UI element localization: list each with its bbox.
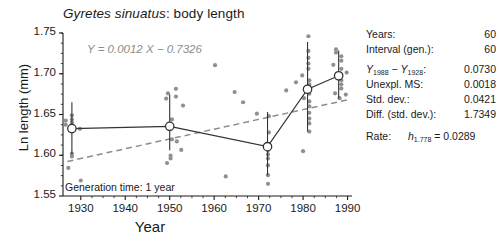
specimen-point bbox=[306, 61, 310, 65]
specimen-point bbox=[241, 100, 245, 104]
scatter-plot: Gyretes sinuatus: body length Y = 0.0012… bbox=[0, 0, 360, 248]
specimen-point bbox=[306, 56, 310, 60]
specimen-point bbox=[179, 148, 183, 152]
specimen-point bbox=[213, 63, 217, 67]
specimen-point bbox=[333, 91, 337, 95]
specimen-point bbox=[70, 154, 74, 158]
specimen-point bbox=[255, 112, 259, 116]
specimen-point bbox=[164, 97, 168, 101]
specimen-point bbox=[331, 63, 335, 67]
stat-value: 60 bbox=[484, 28, 496, 40]
stat-label: Diff. (std. dev.): bbox=[366, 108, 436, 120]
specimen-point bbox=[224, 174, 228, 178]
stat-row-unexplained-ms: Unexpl. MS:0.0018 bbox=[366, 78, 502, 92]
statistics-panel: Years:60Interval (gen.):60Y1988 − Y1928:… bbox=[366, 0, 502, 248]
specimen-point bbox=[301, 149, 305, 153]
mean-connector-line bbox=[72, 76, 339, 147]
specimen-point bbox=[334, 50, 338, 54]
specimen-point bbox=[294, 80, 298, 84]
plot-canvas bbox=[0, 0, 360, 248]
stat-label: Std. dev.: bbox=[366, 93, 410, 105]
regression-line bbox=[67, 100, 347, 162]
specimen-point bbox=[79, 178, 83, 182]
stat-row-years: Years:60 bbox=[366, 28, 502, 42]
stat-row-difference-std-dev: Diff. (std. dev.):1.7349 bbox=[366, 108, 502, 122]
stat-value: 1.7349 bbox=[464, 108, 496, 120]
specimen-point bbox=[170, 117, 174, 121]
specimen-point bbox=[169, 156, 173, 160]
stat-row-rate: Rate:h1.778 = 0.0289 bbox=[366, 130, 502, 144]
stat-label: Unexpl. MS: bbox=[366, 78, 423, 90]
specimen-point bbox=[339, 82, 343, 86]
specimen-point bbox=[64, 119, 68, 123]
specimen-point bbox=[306, 49, 310, 53]
stat-value: h1.778 = 0.0289 bbox=[408, 130, 475, 142]
specimen-point bbox=[344, 92, 348, 96]
specimen-point bbox=[339, 67, 343, 71]
figure-panel: Gyretes sinuatus: body length Y = 0.0012… bbox=[0, 0, 502, 248]
sample-mean-marker bbox=[166, 122, 174, 130]
sample-mean-marker bbox=[303, 85, 311, 93]
specimen-point bbox=[233, 90, 237, 94]
specimen-point bbox=[345, 70, 349, 74]
specimen-point bbox=[284, 88, 288, 92]
regression-trend-line bbox=[67, 100, 347, 162]
specimen-point bbox=[337, 96, 341, 100]
specimen-point bbox=[174, 87, 178, 91]
stat-value: 0.0730 bbox=[464, 63, 496, 75]
specimen-point bbox=[306, 67, 310, 71]
stat-label: Rate: bbox=[366, 130, 391, 142]
specimen-point bbox=[66, 166, 70, 170]
specimen-point bbox=[64, 123, 68, 127]
mean-markers-group bbox=[68, 42, 343, 175]
sample-mean-marker bbox=[334, 72, 342, 80]
data-points-group bbox=[64, 34, 349, 186]
stat-value: 60 bbox=[484, 43, 496, 55]
specimen-point bbox=[339, 86, 343, 90]
specimen-point bbox=[181, 103, 185, 107]
sample-mean-marker bbox=[68, 124, 76, 132]
specimen-point bbox=[306, 34, 310, 38]
stat-label: Years: bbox=[366, 28, 395, 40]
stat-row-interval-generations: Interval (gen.):60 bbox=[366, 43, 502, 57]
stat-label: Y1988 − Y1928: bbox=[366, 63, 426, 75]
specimen-point bbox=[339, 59, 343, 63]
stat-label: Interval (gen.): bbox=[366, 43, 434, 55]
specimen-point bbox=[174, 94, 178, 98]
stat-row-y-difference: Y1988 − Y1928:0.0730 bbox=[366, 63, 502, 77]
specimen-point bbox=[266, 182, 270, 186]
sample-mean-marker bbox=[263, 142, 271, 150]
specimen-point bbox=[300, 73, 304, 77]
specimen-point bbox=[165, 161, 169, 165]
stat-row-standard-deviation: Std. dev.:0.0421 bbox=[366, 93, 502, 107]
specimen-point bbox=[175, 139, 179, 143]
stat-value: 0.0421 bbox=[464, 93, 496, 105]
specimen-point bbox=[339, 54, 343, 58]
stat-value: 0.0018 bbox=[464, 78, 496, 90]
